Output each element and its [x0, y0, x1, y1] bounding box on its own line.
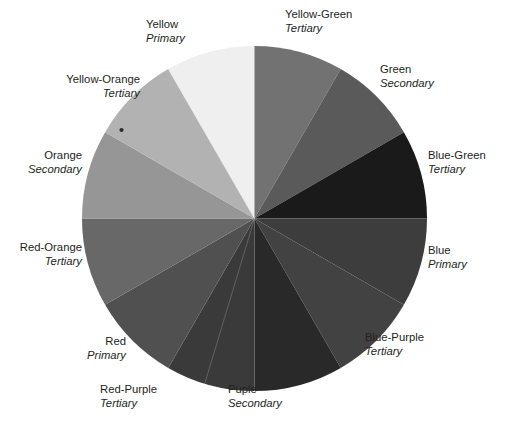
label-name: Blue — [428, 243, 507, 257]
wheel-label-red: Red Primary — [0, 334, 126, 362]
label-category: Tertiary — [428, 162, 507, 176]
label-category: Tertiary — [0, 86, 140, 100]
label-category: Secondary — [380, 76, 500, 90]
label-name: Green — [380, 62, 500, 76]
label-name: Blue-Green — [428, 148, 507, 162]
label-category: Primary — [0, 348, 126, 362]
wheel-label-green: Green Secondary — [380, 62, 500, 90]
label-category: Primary — [146, 31, 254, 45]
color-wheel-figure: Yellow Primary Yellow-Green Tertiary Gre… — [0, 0, 507, 432]
wheel-label-red-orange: Red-Orange Tertiary — [0, 240, 82, 268]
label-name: Yellow-Orange — [0, 72, 140, 86]
label-category: Primary — [428, 257, 507, 271]
speck-artifact — [119, 128, 123, 132]
label-name: Orange — [0, 148, 82, 162]
label-category: Tertiary — [365, 344, 483, 358]
wheel-label-red-purple: Red-Purple Tertiary — [100, 382, 220, 410]
label-name: Red-Purple — [100, 382, 220, 396]
label-name: Yellow-Green — [285, 7, 415, 21]
wheel-label-purple: Puple Secondary — [228, 382, 346, 410]
label-category: Tertiary — [0, 254, 82, 268]
wheel-label-yellow-orange: Yellow-Orange Tertiary — [0, 72, 140, 100]
wheel-label-orange: Orange Secondary — [0, 148, 82, 176]
wheel-label-yellow: Yellow Primary — [146, 17, 254, 45]
wheel-label-blue-green: Blue-Green Tertiary — [428, 148, 507, 176]
label-category: Secondary — [0, 162, 82, 176]
wheel-label-blue-purple: Blue-Purple Tertiary — [365, 330, 483, 358]
label-name: Blue-Purple — [365, 330, 483, 344]
label-name: Yellow — [146, 17, 254, 31]
label-name: Red — [0, 334, 126, 348]
label-category: Secondary — [228, 396, 346, 410]
wheel-label-yellow-green: Yellow-Green Tertiary — [285, 7, 415, 35]
label-name: Puple — [228, 382, 346, 396]
label-name: Red-Orange — [0, 240, 82, 254]
label-category: Tertiary — [285, 21, 415, 35]
wheel-label-blue: Blue Primary — [428, 243, 507, 271]
label-category: Tertiary — [100, 396, 220, 410]
